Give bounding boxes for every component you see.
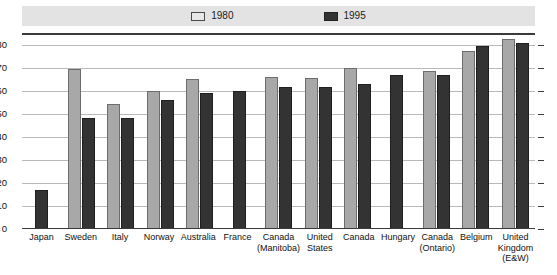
legend-entry-1995: 1995 bbox=[324, 11, 366, 21]
legend-entry-1980: 1980 bbox=[191, 11, 233, 21]
y-axis-tickmark-right bbox=[538, 160, 544, 161]
y-axis-tick-label-left: 80 bbox=[0, 40, 7, 50]
category-label: Japan bbox=[22, 232, 61, 264]
bar-1980 bbox=[107, 104, 120, 229]
bar-1980 bbox=[186, 79, 199, 229]
bar-group bbox=[456, 34, 495, 229]
bar-1995 bbox=[121, 118, 134, 229]
x-axis-baseline bbox=[22, 228, 535, 229]
bar-1995 bbox=[319, 87, 332, 229]
category-label: Canada bbox=[339, 232, 378, 264]
bar-group bbox=[338, 34, 377, 229]
bar-group bbox=[22, 34, 61, 229]
legend-label-1980: 1980 bbox=[211, 11, 233, 21]
bar-1995 bbox=[358, 84, 371, 229]
y-axis-tickmark-right bbox=[538, 91, 544, 92]
bar-1995 bbox=[35, 190, 48, 229]
y-axis-tick-label-left: 70 bbox=[0, 63, 7, 73]
category-label: Norway bbox=[140, 232, 179, 264]
y-axis-tick-label-left: 10 bbox=[0, 201, 7, 211]
bar-1995 bbox=[516, 43, 529, 229]
bar-1980 bbox=[147, 91, 160, 229]
bar-group bbox=[259, 34, 298, 229]
bar-group bbox=[298, 34, 337, 229]
bar-1995 bbox=[200, 93, 213, 229]
category-label: Australia bbox=[179, 232, 218, 264]
bar-group bbox=[417, 34, 456, 229]
y-axis-tick-label-left: 50 bbox=[0, 109, 7, 119]
bar-1980 bbox=[344, 68, 357, 229]
y-axis-tickmark-right bbox=[538, 137, 544, 138]
category-label: United Kingdom (E&W) bbox=[496, 232, 535, 264]
y-axis-tick-label-left: 30 bbox=[0, 155, 7, 165]
bar-1980 bbox=[265, 77, 278, 229]
bar-1995 bbox=[390, 75, 403, 229]
legend-swatch-icon-1980 bbox=[191, 12, 205, 21]
bar-group bbox=[377, 34, 416, 229]
y-axis-tick-label-left: 60 bbox=[0, 86, 7, 96]
y-axis-tick-label-left: 20 bbox=[0, 178, 7, 188]
y-axis-tickmark-right bbox=[538, 206, 544, 207]
bar-group bbox=[140, 34, 179, 229]
y-axis-tickmark-right bbox=[538, 114, 544, 115]
category-label: United States bbox=[300, 232, 339, 264]
category-label: Hungary bbox=[378, 232, 417, 264]
category-labels: JapanSwedenItalyNorwayAustraliaFranceCan… bbox=[22, 232, 535, 264]
bar-1980 bbox=[305, 78, 318, 229]
bar-group bbox=[61, 34, 100, 229]
bar-group bbox=[101, 34, 140, 229]
bar-groups bbox=[22, 34, 535, 229]
bar-group bbox=[219, 34, 258, 229]
legend-swatch-icon-1995 bbox=[324, 12, 338, 21]
chart-legend: 1980 1995 bbox=[22, 6, 535, 26]
y-axis-tick-label-left: 40 bbox=[0, 132, 7, 142]
bar-1995 bbox=[233, 91, 246, 229]
bar-1995 bbox=[437, 75, 450, 229]
y-axis-tick-label-left: 0 bbox=[0, 224, 7, 234]
y-axis-tickmark-right bbox=[538, 45, 544, 46]
bar-1980 bbox=[462, 51, 475, 229]
bar-1995 bbox=[476, 46, 489, 229]
bar-group bbox=[180, 34, 219, 229]
bar-1995 bbox=[279, 87, 292, 229]
bar-1995 bbox=[161, 100, 174, 229]
bar-group bbox=[496, 34, 535, 229]
category-label: Canada (Manitoba) bbox=[257, 232, 300, 264]
y-axis-tickmark-right bbox=[538, 229, 544, 230]
legend-label-1995: 1995 bbox=[344, 11, 366, 21]
plot-area bbox=[22, 33, 535, 229]
y-axis-tickmark-right bbox=[538, 68, 544, 69]
category-label: Belgium bbox=[457, 232, 496, 264]
category-label: Italy bbox=[100, 232, 139, 264]
bar-1980 bbox=[423, 71, 436, 229]
category-label: France bbox=[218, 232, 257, 264]
bar-1980 bbox=[502, 39, 515, 229]
category-label: Canada (Ontario) bbox=[418, 232, 457, 264]
bar-1980 bbox=[68, 69, 81, 229]
bar-chart: 1980 1995 808070706060505040403030202010… bbox=[0, 0, 557, 275]
plot-frame: 8080707060605050404030302020101000 bbox=[22, 33, 535, 229]
bar-1995 bbox=[82, 118, 95, 229]
category-label: Sweden bbox=[61, 232, 100, 264]
y-axis-tickmark-right bbox=[538, 183, 544, 184]
